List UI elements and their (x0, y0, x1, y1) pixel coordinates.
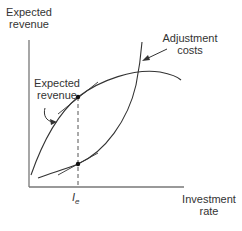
expected-revenue-curve-label: Expected revenue (32, 77, 82, 101)
x-axis-label: Investment rate (180, 193, 238, 217)
adjustment-costs-label: Adjustment costs (160, 32, 220, 56)
costs-arrowhead-icon (142, 55, 150, 61)
costs-tangency-point (76, 162, 80, 166)
y-axis-label: Expected revenue (2, 6, 56, 30)
revenue-arrowhead-icon (50, 119, 57, 125)
ie-tick-label: Ie (72, 191, 86, 208)
